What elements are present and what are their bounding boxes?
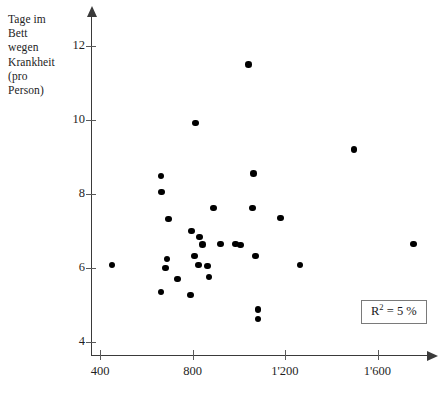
y-axis-arrow-icon xyxy=(87,6,97,17)
data-point xyxy=(297,262,304,269)
y-tick-mark xyxy=(86,120,96,121)
data-point xyxy=(188,228,195,235)
x-tick-mark xyxy=(378,350,379,360)
data-point xyxy=(109,262,116,269)
data-point xyxy=(158,189,165,196)
data-point xyxy=(351,146,358,153)
data-point xyxy=(250,170,257,177)
x-tick-label: 400 xyxy=(70,364,130,379)
data-point xyxy=(164,256,171,263)
y-tick-label: 4 xyxy=(57,334,85,349)
x-tick-mark xyxy=(193,350,194,360)
data-point xyxy=(245,61,252,68)
data-point xyxy=(195,262,202,269)
y-tick-label: 10 xyxy=(57,112,85,127)
data-point xyxy=(192,120,199,127)
data-point xyxy=(252,253,259,260)
y-tick-mark xyxy=(86,194,96,195)
x-tick-label: 800 xyxy=(163,364,223,379)
data-point xyxy=(204,263,211,270)
data-point xyxy=(162,265,169,272)
plot-area: 1210864 4008001'2001'600 xyxy=(0,0,443,394)
x-tick-label: 1'600 xyxy=(348,364,408,379)
data-point xyxy=(199,241,206,248)
data-point xyxy=(249,205,256,212)
data-point xyxy=(158,173,165,180)
y-tick-mark xyxy=(86,268,96,269)
data-point xyxy=(217,241,224,248)
data-point xyxy=(237,242,244,249)
y-tick-label: 8 xyxy=(57,186,85,201)
data-point xyxy=(196,234,203,241)
r-squared-value: = 5 % xyxy=(384,304,417,318)
x-tick-mark xyxy=(100,350,101,360)
x-axis-arrow-icon xyxy=(427,351,438,361)
data-point xyxy=(410,241,417,248)
x-tick-mark xyxy=(285,350,286,360)
data-point xyxy=(158,289,165,296)
data-point xyxy=(191,253,198,260)
data-point xyxy=(174,276,181,283)
y-tick-mark xyxy=(86,342,96,343)
data-point xyxy=(187,292,194,299)
scatter-chart-figure: Tage im Bett wegen Krankheit (pro Person… xyxy=(0,0,443,394)
data-point xyxy=(165,216,172,223)
y-tick-label: 12 xyxy=(57,38,85,53)
data-point xyxy=(255,316,262,323)
data-point xyxy=(255,306,262,313)
data-point xyxy=(277,215,284,222)
y-tick-label: 6 xyxy=(57,260,85,275)
r-squared-annotation: R2 = 5 % xyxy=(361,300,427,324)
data-point xyxy=(210,205,217,212)
y-tick-mark xyxy=(86,46,96,47)
x-tick-label: 1'200 xyxy=(255,364,315,379)
data-point xyxy=(206,274,213,281)
y-axis-line xyxy=(91,14,92,356)
